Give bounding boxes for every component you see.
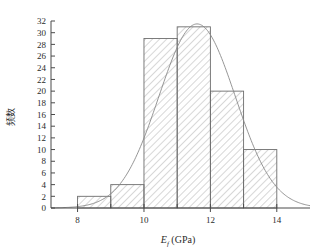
y-tick-label: 24 — [37, 63, 47, 73]
histogram-bar — [177, 27, 210, 208]
y-axis-ticks: 02468101214161820222426283032 — [37, 16, 55, 213]
y-tick-label: 28 — [37, 40, 47, 50]
histogram-bars — [78, 27, 277, 208]
y-tick-label: 30 — [37, 28, 47, 38]
y-tick-label: 8 — [42, 156, 47, 166]
histogram-bar — [244, 150, 277, 208]
y-tick-label: 4 — [42, 180, 47, 190]
histogram-bar — [144, 39, 177, 208]
y-tick-label: 6 — [42, 168, 47, 178]
y-tick-label: 20 — [37, 86, 47, 96]
y-tick-label: 26 — [37, 51, 47, 61]
y-tick-label: 2 — [42, 192, 47, 202]
x-tick-label: 12 — [206, 215, 215, 225]
chart-canvas: 02468101214161820222426283032 8101214 频数… — [0, 0, 320, 252]
y-axis-label-text: 频数 — [5, 108, 16, 126]
x-axis-label-text: Ef (GPa) — [160, 234, 195, 248]
y-tick-label: 16 — [37, 110, 47, 120]
y-axis-label: 频数 — [5, 108, 16, 126]
y-tick-label: 32 — [37, 16, 46, 26]
histogram-bar — [111, 185, 144, 208]
y-tick-label: 18 — [37, 98, 47, 108]
y-tick-label: 14 — [37, 121, 47, 131]
y-tick-label: 10 — [37, 145, 47, 155]
histogram-chart: 02468101214161820222426283032 8101214 频数… — [0, 0, 320, 252]
x-tick-label: 14 — [272, 215, 282, 225]
y-tick-label: 22 — [37, 75, 46, 85]
y-tick-label: 12 — [37, 133, 46, 143]
y-tick-label: 0 — [42, 203, 47, 213]
histogram-bar — [210, 91, 243, 208]
x-axis-label: Ef (GPa) — [160, 234, 195, 248]
x-tick-label: 10 — [139, 215, 149, 225]
x-tick-label: 8 — [75, 215, 80, 225]
